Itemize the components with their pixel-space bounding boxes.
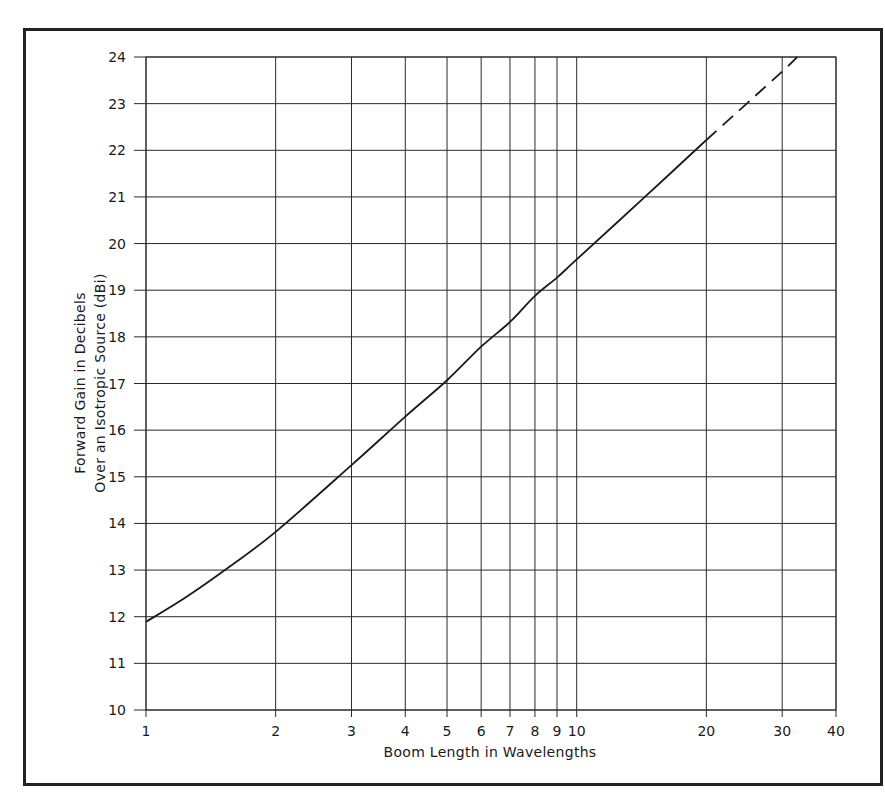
x-tick-label: 20	[697, 723, 715, 739]
data-series	[146, 57, 797, 622]
x-tick-label: 6	[477, 723, 486, 739]
y-axis-ticks: 101112131415161718192021222324	[108, 49, 126, 718]
y-tick-label: 24	[108, 49, 126, 65]
y-tick-label: 15	[108, 469, 126, 485]
x-tick-label: 30	[773, 723, 791, 739]
y-axis-title: Forward Gain in Decibels Over an Isotrop…	[72, 273, 108, 492]
y-tick-label: 13	[108, 562, 126, 578]
x-tick-label: 10	[568, 723, 586, 739]
x-tick-label: 2	[271, 723, 280, 739]
x-axis-ticks: 12345678910203040	[142, 723, 845, 739]
x-tick-label: 7	[506, 723, 515, 739]
x-axis-title: Boom Length in Wavelengths	[384, 744, 597, 760]
y-tick-label: 12	[108, 609, 126, 625]
x-tick-label: 5	[443, 723, 452, 739]
x-tick-label: 40	[827, 723, 845, 739]
grid	[134, 57, 836, 717]
y-tick-label: 23	[108, 96, 126, 112]
y-tick-label: 11	[108, 655, 126, 671]
y-axis-title-line-1: Forward Gain in Decibels	[72, 292, 88, 473]
y-axis-title-line-2: Over an Isotropic Source (dBi)	[92, 273, 108, 492]
gain-curve	[146, 140, 706, 622]
y-tick-label: 18	[108, 329, 126, 345]
y-tick-label: 10	[108, 702, 126, 718]
y-tick-label: 22	[108, 142, 126, 158]
y-tick-label: 20	[108, 236, 126, 252]
y-tick-label: 19	[108, 282, 126, 298]
y-tick-label: 14	[108, 515, 126, 531]
outer-frame	[25, 30, 882, 785]
y-tick-label: 21	[108, 189, 126, 205]
x-tick-label: 1	[142, 723, 151, 739]
x-tick-label: 9	[553, 723, 562, 739]
chart: 101112131415161718192021222324 123456789…	[0, 0, 885, 799]
x-tick-label: 3	[347, 723, 356, 739]
extrapolated-gain-line	[706, 57, 797, 140]
y-tick-label: 16	[108, 422, 126, 438]
x-tick-label: 8	[530, 723, 539, 739]
y-tick-label: 17	[108, 376, 126, 392]
x-tick-label: 4	[401, 723, 410, 739]
